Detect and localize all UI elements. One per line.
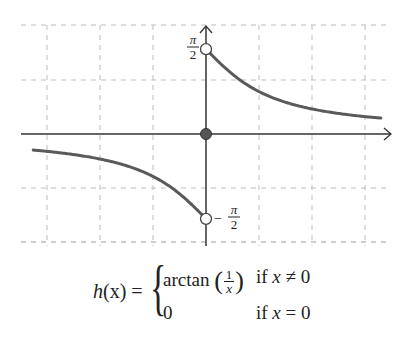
if-label: if xyxy=(256,302,268,323)
fraction: 1x xyxy=(224,268,235,295)
filled-point-marker xyxy=(201,129,212,140)
curve-left xyxy=(33,150,203,216)
open-point-marker xyxy=(201,213,212,224)
case1-condition: if x ≠ 0 xyxy=(256,266,310,288)
relation: = 0 xyxy=(286,302,311,323)
tick-label-pi-over-2: π xyxy=(190,32,197,47)
var-x: x xyxy=(272,302,280,323)
case1-expression: arctan (1x) xyxy=(163,266,244,296)
case2-condition: if x = 0 xyxy=(256,302,311,324)
case2-value: 0 xyxy=(163,302,173,323)
open-point-marker xyxy=(201,44,212,55)
if-label: if xyxy=(256,266,268,287)
fraction-numerator: 1 xyxy=(224,268,235,282)
case2-expression: 0 xyxy=(163,302,173,324)
tick-label-denominator: 2 xyxy=(231,217,238,232)
curve-right xyxy=(209,52,381,118)
arctan-label: arctan xyxy=(163,269,209,290)
formula-lhs: h(x) = xyxy=(93,280,143,303)
arctan-graph: π2−π2 xyxy=(0,0,407,250)
fraction-denominator: x xyxy=(224,282,235,295)
open-paren: ( xyxy=(214,266,223,295)
tick-label-denominator: 2 xyxy=(190,47,197,62)
function-arg: (x) = xyxy=(103,280,143,302)
minus-sign: − xyxy=(214,211,222,226)
tick-label-neg-pi-over-2: π xyxy=(231,202,238,217)
close-paren: ) xyxy=(235,266,244,295)
relation: ≠ 0 xyxy=(286,266,311,287)
tick-labels: π2−π2 xyxy=(187,32,240,232)
piecewise-formula: h(x) = { arctan (1x) if x ≠ 0 0 if x = 0 xyxy=(0,252,407,346)
var-x: x xyxy=(272,266,280,287)
function-name: h xyxy=(93,280,103,302)
